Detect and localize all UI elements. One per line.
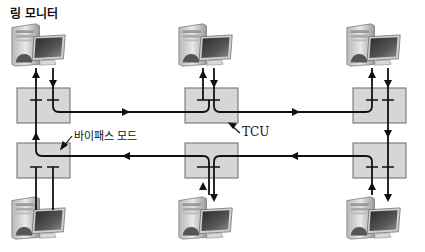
arrow-left-icon <box>122 152 130 160</box>
arrow-down-icon <box>384 130 392 138</box>
tcu-label: TCU <box>242 125 269 139</box>
computer-bottom-middle-icon <box>179 197 232 239</box>
tcu-box-top-right <box>353 88 406 123</box>
arrow-up-icon <box>199 182 207 190</box>
computer-top-right-icon <box>347 24 400 66</box>
arrow-right-icon <box>292 108 300 116</box>
arrow-left-icon <box>290 152 298 160</box>
arrow-down-icon <box>210 194 218 202</box>
arrow-up-icon <box>368 182 376 190</box>
arrow-down-icon <box>384 194 392 202</box>
computer-bottom-right-icon <box>347 197 400 239</box>
tcu-box-top-left <box>17 88 70 123</box>
computer-top-middle-icon <box>179 24 232 66</box>
arrow-down-icon <box>49 80 57 88</box>
tcu-box-bottom-middle <box>185 143 238 178</box>
tcu-box-top-middle <box>185 88 238 123</box>
computer-bottom-left-icon <box>12 197 65 239</box>
token-ring-diagram <box>0 0 425 252</box>
arrow-up-icon <box>32 70 40 78</box>
arrow-up-icon <box>368 70 376 78</box>
arrow-up-icon <box>32 132 40 140</box>
bypass-mode-label: 바이패스 모드 <box>74 127 138 143</box>
arrow-up-icon <box>199 70 207 78</box>
arrow-down-icon <box>210 80 218 88</box>
tcu-box-bottom-right <box>353 143 406 178</box>
computer-top-left-icon <box>12 24 65 66</box>
ring-monitor-label: 링 모니터 <box>10 4 58 21</box>
arrow-down-icon <box>384 80 392 88</box>
arrow-right-icon <box>122 108 130 116</box>
